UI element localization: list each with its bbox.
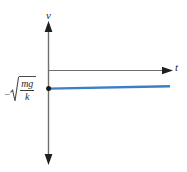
radicand-fraction: mg k bbox=[19, 76, 36, 102]
horizontal-axis-right-arrowhead bbox=[162, 67, 173, 74]
horizontal-axis-label: t bbox=[175, 62, 178, 73]
fraction-numerator: mg bbox=[20, 79, 34, 89]
velocity-time-figure: v t − mg k bbox=[0, 0, 187, 172]
vertical-axis-top-arrowhead bbox=[45, 21, 53, 32]
velocity-curve bbox=[49, 86, 170, 88]
terminal-velocity-point bbox=[46, 86, 51, 91]
radical-group: mg k bbox=[10, 76, 36, 102]
terminal-velocity-label: − mg k bbox=[4, 76, 36, 102]
vertical-axis-bottom-arrowhead bbox=[45, 154, 53, 165]
vertical-axis-label: v bbox=[46, 10, 51, 21]
fraction-denominator: k bbox=[24, 92, 30, 102]
radical-sign-icon bbox=[10, 76, 19, 102]
